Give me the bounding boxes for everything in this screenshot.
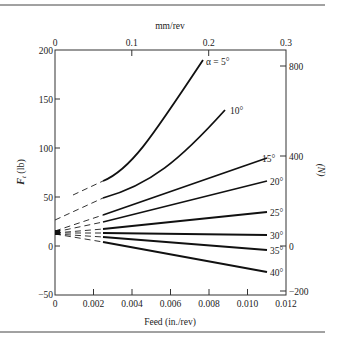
svg-text:0.2: 0.2 bbox=[203, 38, 215, 48]
svg-text:100: 100 bbox=[39, 144, 54, 154]
y-axis-ticks bbox=[55, 99, 60, 246]
series-alpha-30 bbox=[103, 233, 267, 235]
x-axis-ticks bbox=[94, 289, 248, 295]
plot-frame bbox=[55, 50, 286, 295]
svg-text:200: 200 bbox=[39, 46, 54, 56]
series-labels: α = 5° 10° 15° 20° 25° 30° 35° 40° bbox=[206, 57, 284, 278]
series-alpha-10 bbox=[103, 110, 225, 198]
x2-axis-tick-labels: 0 0.1 0.2 0.3 bbox=[53, 38, 293, 48]
svg-text:0: 0 bbox=[48, 242, 53, 252]
svg-text:20°: 20° bbox=[270, 177, 284, 187]
svg-text:800: 800 bbox=[289, 62, 304, 72]
svg-text:150: 150 bbox=[39, 95, 54, 105]
y-axis-tick-labels: 200 150 100 50 0 −50 bbox=[38, 46, 53, 300]
y2-axis-tick-labels: 800 400 0 −200 bbox=[289, 62, 309, 297]
x2-axis-label: mm/rev bbox=[155, 21, 185, 31]
x-axis-label: Feed (in./rev) bbox=[144, 317, 196, 328]
convergence-marker bbox=[55, 230, 60, 235]
svg-text:0.1: 0.1 bbox=[126, 38, 138, 48]
svg-text:−200: −200 bbox=[289, 287, 309, 297]
svg-text:40°: 40° bbox=[270, 268, 284, 278]
svg-text:0.008: 0.008 bbox=[198, 299, 220, 309]
y2-axis-label: (N) bbox=[315, 164, 326, 177]
chart: 0 0.002 0.004 0.006 0.008 0.010 0.012 Fe… bbox=[0, 0, 339, 342]
series-alpha-5 bbox=[103, 60, 203, 181]
svg-text:35°: 35° bbox=[270, 246, 284, 256]
svg-text:0: 0 bbox=[289, 242, 294, 252]
svg-text:400: 400 bbox=[289, 152, 304, 162]
svg-text:15°: 15° bbox=[262, 154, 276, 164]
series-alpha-25 bbox=[103, 212, 267, 229]
data-lines bbox=[103, 60, 267, 272]
svg-text:50: 50 bbox=[44, 193, 54, 203]
svg-text:0.004: 0.004 bbox=[121, 299, 143, 309]
svg-text:25°: 25° bbox=[270, 208, 284, 218]
svg-text:30°: 30° bbox=[270, 231, 284, 241]
y-axis-label: Ft (lb) bbox=[15, 159, 28, 186]
extrapolation-lines bbox=[55, 181, 103, 242]
svg-text:0: 0 bbox=[53, 299, 58, 309]
svg-text:0.006: 0.006 bbox=[160, 299, 182, 309]
svg-text:0.010: 0.010 bbox=[237, 299, 259, 309]
series-alpha-35 bbox=[103, 237, 267, 250]
x2-axis-ticks bbox=[132, 50, 209, 56]
svg-text:10°: 10° bbox=[230, 106, 244, 116]
svg-text:−50: −50 bbox=[38, 290, 53, 300]
svg-text:α = 5°: α = 5° bbox=[206, 57, 230, 67]
series-alpha-40 bbox=[103, 242, 267, 272]
svg-text:0.3: 0.3 bbox=[280, 38, 292, 48]
svg-text:0.012: 0.012 bbox=[275, 299, 297, 309]
svg-text:0.002: 0.002 bbox=[83, 299, 105, 309]
x-axis-tick-labels: 0 0.002 0.004 0.006 0.008 0.010 0.012 bbox=[53, 299, 297, 309]
svg-text:0: 0 bbox=[53, 38, 58, 48]
